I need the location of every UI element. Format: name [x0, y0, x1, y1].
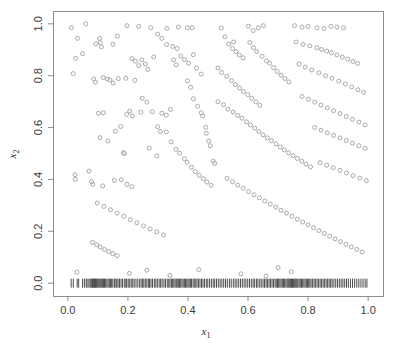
data-point [269, 139, 273, 143]
data-point [152, 55, 156, 59]
data-point [313, 100, 317, 104]
data-point [363, 146, 367, 150]
data-point [101, 76, 105, 80]
data-point [248, 41, 252, 45]
data-point [71, 72, 75, 76]
data-point [230, 79, 234, 83]
data-point [364, 179, 368, 183]
data-point [73, 173, 77, 177]
data-point [339, 240, 343, 244]
data-point [223, 35, 227, 39]
y-axis-title: x2 [6, 150, 21, 160]
data-point [96, 111, 100, 115]
data-point [145, 100, 149, 104]
data-point [140, 58, 144, 62]
data-point [306, 223, 310, 227]
data-point [255, 50, 259, 54]
data-point [101, 111, 105, 115]
data-point [322, 26, 326, 30]
data-point [98, 245, 102, 249]
data-point [343, 82, 347, 86]
y-axis: 0.00.20.40.60.81.0 [32, 16, 53, 291]
data-point [98, 136, 102, 140]
data-point [115, 254, 119, 258]
data-point [185, 79, 189, 83]
data-point [84, 22, 88, 26]
data-point [330, 51, 334, 55]
data-point [320, 48, 324, 52]
data-point [175, 46, 179, 50]
data-point [95, 201, 99, 205]
data-point [179, 54, 183, 58]
data-point [137, 64, 141, 68]
data-point [251, 29, 255, 33]
data-point [156, 32, 160, 36]
data-point [261, 133, 265, 137]
data-point [172, 58, 176, 62]
data-point [342, 26, 346, 30]
data-point [119, 125, 123, 129]
data-point [275, 70, 279, 74]
data-point [308, 165, 312, 169]
x-tick-label: 0.2 [120, 304, 135, 316]
y-tick-label: 0.6 [32, 120, 44, 135]
data-point [73, 177, 77, 181]
data-point [216, 66, 220, 70]
data-point [340, 55, 344, 59]
data-point [145, 268, 149, 272]
data-point [358, 176, 362, 180]
data-point [325, 131, 329, 135]
data-point [190, 26, 194, 30]
data-point [160, 111, 164, 115]
x-axis-title-subscript: 1 [206, 331, 210, 340]
data-point [295, 156, 299, 160]
data-point [310, 68, 314, 72]
x-axis: 0.00.20.40.60.81.0 [60, 296, 376, 316]
data-point [257, 129, 261, 133]
x-tick-label: 0.6 [240, 304, 255, 316]
data-point [204, 131, 208, 135]
x-axis-title: x1 [201, 325, 211, 340]
data-point [344, 114, 348, 118]
data-point [322, 231, 326, 235]
data-point [106, 139, 110, 143]
data-point [251, 46, 255, 50]
data-point [112, 178, 116, 182]
data-point [230, 180, 234, 184]
data-point [102, 204, 106, 208]
data-point [250, 96, 254, 100]
data-point [98, 36, 102, 40]
data-point [290, 214, 294, 218]
data-point [245, 120, 249, 124]
y-tick-label: 0.2 [32, 224, 44, 239]
data-point [300, 25, 304, 29]
data-point [208, 144, 212, 148]
data-point [125, 24, 129, 28]
data-point [101, 184, 105, 188]
y-axis-title-subscript: 2 [12, 150, 21, 154]
data-point [165, 43, 169, 47]
data-point [253, 126, 257, 130]
data-point [158, 129, 162, 133]
data-point [333, 237, 337, 241]
data-point [261, 24, 265, 28]
data-point [130, 114, 134, 118]
data-point [272, 66, 276, 70]
data-point [357, 120, 361, 124]
data-point [246, 93, 250, 97]
data-point [201, 177, 205, 181]
data-point [205, 180, 209, 184]
data-point [248, 123, 252, 127]
data-point [330, 76, 334, 80]
data-point [98, 41, 102, 45]
data-point [160, 36, 164, 40]
data-point [221, 103, 225, 107]
data-point [232, 40, 236, 44]
data-point [338, 136, 342, 140]
x-tick-label: 0.4 [180, 304, 195, 316]
data-point [216, 100, 220, 104]
data-point [303, 65, 307, 69]
data-point [236, 113, 240, 117]
data-point [102, 247, 106, 251]
data-point [81, 52, 85, 56]
